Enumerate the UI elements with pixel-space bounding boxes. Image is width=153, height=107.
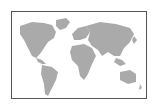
japan: [132, 36, 137, 44]
north-america: [20, 22, 56, 58]
new-zealand: [139, 84, 142, 90]
world-map-icon: [12, 12, 148, 100]
world-map-frame: [11, 11, 147, 99]
central-america: [36, 58, 46, 64]
europe: [72, 26, 90, 40]
australia: [120, 70, 136, 84]
greenland: [56, 18, 70, 30]
southeast-asia: [114, 58, 126, 66]
south-america: [41, 65, 58, 96]
africa: [70, 44, 96, 80]
